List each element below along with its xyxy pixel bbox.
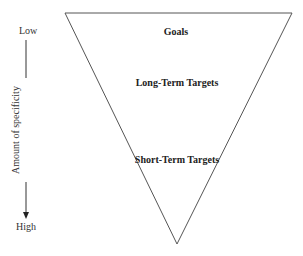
arrow-down-icon [23, 212, 29, 219]
diagram-canvas [0, 0, 303, 256]
tier-long-term-targets: Long-Term Targets [136, 77, 219, 88]
inverted-triangle [65, 13, 292, 244]
tier-goals: Goals [164, 26, 188, 37]
axis-high-label: High [16, 221, 36, 232]
axis-low-label: Low [19, 25, 37, 36]
tier-short-term-targets: Short-Term Targets [135, 154, 219, 165]
axis-title: Amount of specificity [10, 86, 21, 174]
